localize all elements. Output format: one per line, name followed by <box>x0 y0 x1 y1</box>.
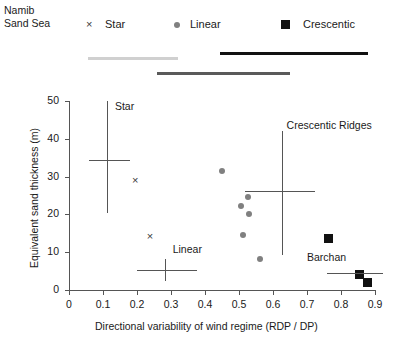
linear-cross-horizontal-whisker <box>137 270 197 271</box>
x-tick <box>375 291 376 295</box>
y-tick <box>65 101 69 102</box>
data-point-crescentic <box>363 278 372 287</box>
y-tick-label: 10 <box>37 245 59 257</box>
star-cross-vertical-whisker <box>107 101 108 213</box>
x-tick-label: 0.4 <box>191 298 219 310</box>
y-tick-label: 20 <box>37 207 59 219</box>
barchan-bar-label: Barchan <box>307 251 346 263</box>
crescentic-ridges-cross-label: Crescentic Ridges <box>287 119 372 131</box>
y-tick-label: 30 <box>37 170 59 182</box>
x-tick-label: 0.3 <box>157 298 185 310</box>
y-tick <box>65 214 69 215</box>
y-axis-title: Equivalent sand thickness (m) <box>28 128 40 268</box>
x-tick-label: 0.1 <box>89 298 117 310</box>
star-cross-label: Star <box>115 100 134 112</box>
figure-root: Namib Sand Sea × Star Linear Crescentic … <box>0 0 394 348</box>
x-tick <box>341 291 342 295</box>
data-point-linear <box>246 211 252 217</box>
data-point-star: × <box>145 231 155 242</box>
x-tick-label: 0 <box>55 298 83 310</box>
y-tick-label: 50 <box>37 94 59 106</box>
crescentic-ridges-cross-vertical-whisker <box>282 131 283 255</box>
x-tick-label: 0.9 <box>361 298 389 310</box>
x-tick-label: 0.7 <box>293 298 321 310</box>
x-tick <box>307 291 308 295</box>
y-tick <box>65 139 69 140</box>
x-axis-line <box>69 290 376 291</box>
x-tick <box>103 291 104 295</box>
x-tick-label: 0.6 <box>259 298 287 310</box>
data-point-linear <box>240 232 246 238</box>
x-tick <box>171 291 172 295</box>
x-tick <box>239 291 240 295</box>
y-tick <box>65 177 69 178</box>
y-tick <box>65 252 69 253</box>
star-cross-horizontal-whisker <box>89 160 130 161</box>
crescentic-ridges-cross-horizontal-whisker <box>245 191 315 192</box>
x-tick-label: 0.5 <box>225 298 253 310</box>
y-tick-label: 0 <box>37 283 59 295</box>
data-point-linear <box>245 194 251 200</box>
x-tick <box>205 291 206 295</box>
data-point-star: × <box>130 175 140 186</box>
x-axis-title: Directional variability of wind regime (… <box>95 320 318 332</box>
data-point-crescentic <box>324 234 333 243</box>
data-point-linear <box>257 256 263 262</box>
x-tick-label: 0.8 <box>327 298 355 310</box>
x-tick-label: 0.2 <box>123 298 151 310</box>
y-tick-label: 40 <box>37 132 59 144</box>
scatter-plot: 0102030405000.10.20.30.40.50.60.70.80.9 … <box>0 0 394 348</box>
barchan-bar-line <box>327 273 383 274</box>
x-tick <box>69 291 70 295</box>
y-axis-line <box>69 101 70 291</box>
linear-cross-label: Linear <box>173 243 202 255</box>
data-point-linear <box>238 203 244 209</box>
data-point-linear <box>219 168 225 174</box>
x-tick <box>273 291 274 295</box>
x-tick <box>137 291 138 295</box>
